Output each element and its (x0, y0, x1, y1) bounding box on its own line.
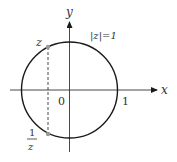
point-z-label: z (35, 36, 42, 49)
unit-label: 1 (122, 95, 129, 108)
x-axis-label: x (161, 83, 168, 97)
unit-circle-diagram: x y |z|=1 0 1 z 1 z (0, 0, 177, 162)
inverse-denominator: z (27, 141, 34, 152)
y-axis-label: y (65, 5, 73, 19)
origin-label: 0 (58, 95, 65, 108)
inverse-numerator: 1 (29, 127, 35, 138)
circle-label: |z|=1 (90, 30, 117, 42)
point-inverse-z (46, 132, 50, 136)
point-z (46, 45, 50, 49)
